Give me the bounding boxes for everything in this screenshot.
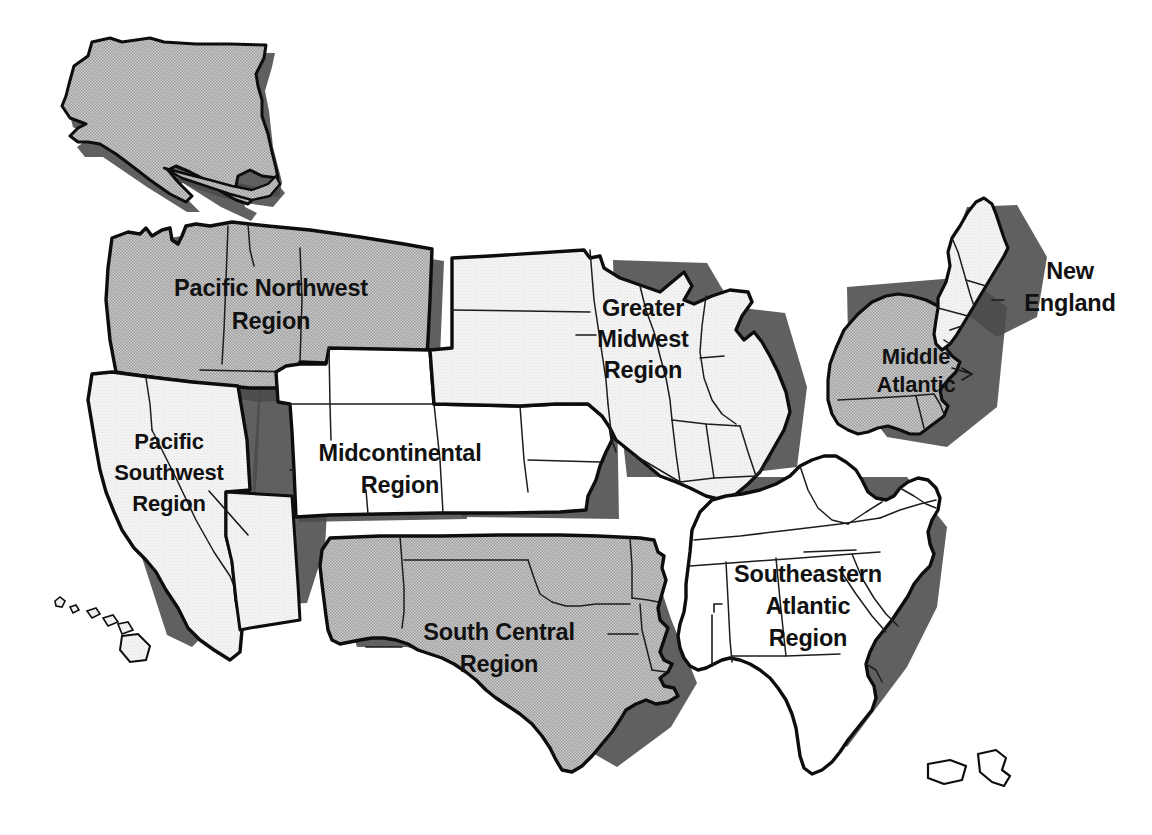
label-psw-line2: Southwest: [114, 460, 224, 485]
label-midwest-line3: Region: [604, 357, 682, 383]
label-greater-midwest: Greater Midwest Region: [597, 295, 689, 383]
region-southeastern-atlantic[interactable]: [678, 456, 1010, 786]
label-southeast-line3: Region: [769, 625, 847, 651]
label-pnw-line2: Region: [232, 308, 310, 334]
label-psw-line3: Region: [132, 491, 205, 516]
label-midatl-line2: Atlantic: [876, 372, 955, 397]
us-regional-map: Pacific Northwest Region Pacific Southwe…: [0, 0, 1152, 835]
label-midwest-line2: Midwest: [597, 326, 689, 352]
label-midcont-line2: Region: [361, 472, 439, 498]
label-pnw-line1: Pacific Northwest: [174, 275, 368, 301]
label-midcont-line1: Midcontinental: [319, 440, 482, 466]
state-hawaii: [55, 597, 150, 662]
state-arizona: [226, 492, 300, 630]
island-territories: [928, 750, 1010, 786]
label-psw-line1: Pacific: [134, 429, 204, 454]
label-southcentral-line2: Region: [460, 651, 538, 677]
label-southeast-line1: Southeastern: [734, 561, 882, 587]
label-midatl-line1: Middle: [882, 344, 950, 369]
label-newengland-line1: New: [1046, 258, 1095, 284]
label-midwest-line1: Greater: [602, 295, 684, 321]
map-svg: Pacific Northwest Region Pacific Southwe…: [0, 0, 1152, 835]
label-newengland-line2: England: [1024, 290, 1115, 316]
label-southeast-line2: Atlantic: [766, 593, 851, 619]
label-southcentral-line1: South Central: [423, 619, 574, 645]
